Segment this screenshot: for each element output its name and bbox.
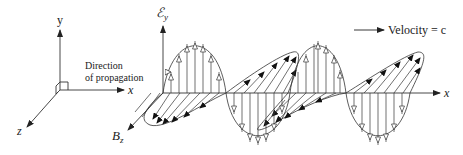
b-field-label-sub: z bbox=[119, 135, 124, 145]
b-field-lobes bbox=[128, 52, 424, 130]
b-lobe-4 bbox=[346, 52, 424, 93]
origin-box bbox=[56, 82, 68, 94]
x-axis-label-legend: x bbox=[127, 83, 134, 97]
direction-label-line1: Direction bbox=[85, 60, 123, 71]
b-lobe-3 bbox=[257, 93, 346, 130]
z-axis-arrow bbox=[27, 92, 58, 127]
y-axis-label: y bbox=[57, 13, 63, 27]
velocity-label: Velocity = c bbox=[388, 23, 446, 37]
direction-label-line2: of propagation bbox=[85, 72, 144, 83]
e-field-label: ℰy bbox=[156, 5, 168, 22]
z-axis-label: z bbox=[16, 124, 22, 138]
em-wave-diagram: y x z Direction of propagation bbox=[0, 0, 463, 155]
e-field-label-sub: y bbox=[163, 12, 168, 22]
wave-x-axis-label: x bbox=[443, 86, 450, 100]
b-field-label: Bz bbox=[112, 128, 124, 145]
b-field-label-main: B bbox=[112, 128, 120, 143]
